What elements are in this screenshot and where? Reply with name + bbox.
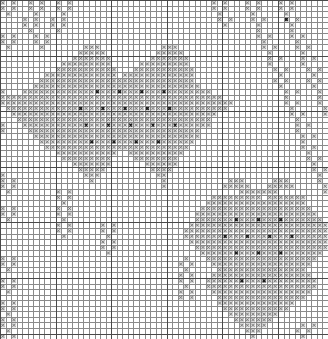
pattern-grid-canvas[interactable] — [0, 0, 328, 339]
pattern-chart-root — [0, 0, 328, 339]
